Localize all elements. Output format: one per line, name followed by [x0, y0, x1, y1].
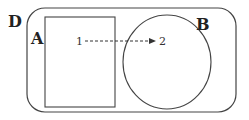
region-b-label: B [196, 15, 210, 34]
region-a-shape [45, 17, 115, 107]
region-a-label: A [30, 29, 44, 48]
region-d-label: D [8, 12, 22, 31]
venn-diagram: D A B 1 2 [0, 0, 249, 120]
point-1-label: 1 [76, 35, 83, 48]
point-2-label: 2 [159, 35, 166, 48]
